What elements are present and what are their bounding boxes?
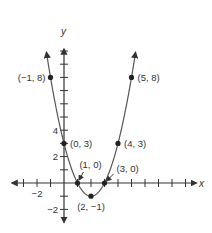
ticks: −242−2 xyxy=(24,51,186,215)
data-point xyxy=(88,194,93,199)
y-tick-label: 4 xyxy=(53,125,58,136)
label-pointer-arrow xyxy=(79,172,84,180)
x-axis-label: x xyxy=(198,178,205,189)
data-point xyxy=(129,75,134,80)
point-label: (2, −1) xyxy=(77,201,105,212)
point-label: (5, 8) xyxy=(138,72,160,83)
data-point xyxy=(115,141,120,146)
data-point xyxy=(102,180,107,185)
point-label: (0, 3) xyxy=(70,138,92,149)
curve-group xyxy=(46,52,135,196)
y-tick-label: −2 xyxy=(47,204,58,215)
parabola-chart: −242−2 (−1, 8)(5, 8)(0, 3)(4, 3)(1, 0)(3… xyxy=(0,0,212,233)
data-point xyxy=(48,75,53,80)
y-axis-label: y xyxy=(60,26,67,37)
point-label: (−1, 8) xyxy=(18,72,46,83)
point-label: (4, 3) xyxy=(124,138,146,149)
y-tick-label: 2 xyxy=(53,151,58,162)
data-point xyxy=(75,180,80,185)
point-label: (3, 0) xyxy=(117,163,139,174)
x-tick-label: −2 xyxy=(32,188,43,199)
parabola-curve xyxy=(46,52,135,196)
data-point xyxy=(61,141,66,146)
point-label: (1, 0) xyxy=(79,159,101,170)
